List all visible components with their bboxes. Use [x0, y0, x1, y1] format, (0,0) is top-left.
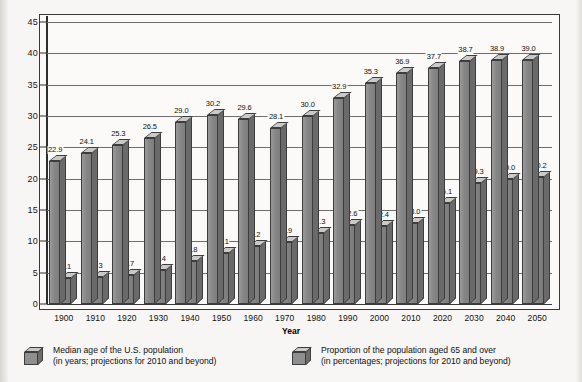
bar-median-age[interactable]: 38.9 — [491, 60, 502, 304]
bar-side — [418, 217, 424, 304]
x-axis-tick-label: 1970 — [275, 313, 294, 323]
bar-side — [260, 240, 266, 304]
bar-value-label: 30.2 — [205, 100, 221, 108]
bar-median-age[interactable]: 32.9 — [333, 98, 344, 304]
x-axis-tick-label: 2000 — [370, 313, 389, 323]
bar-value-label: 38.7 — [457, 46, 473, 54]
bar-group: 37.716.1 — [426, 22, 458, 304]
y-axis-tick-mark — [40, 116, 47, 117]
bar-median-age[interactable]: 24.1 — [81, 153, 92, 304]
cube-icon — [24, 347, 44, 365]
legend-line-1: Proportion of the population aged 65 and… — [321, 345, 496, 355]
bar-group: 22.94.1 — [47, 22, 79, 304]
y-axis-tick-mark — [40, 304, 47, 305]
bar-median-age[interactable]: 37.7 — [428, 68, 439, 304]
x-axis-tick-label: 1910 — [86, 313, 105, 323]
y-axis: 051015202530354045 — [0, 14, 47, 310]
bar-face — [238, 119, 249, 304]
bar-value-label: 32.9 — [331, 83, 347, 91]
bar-side — [355, 219, 361, 304]
bar-median-age[interactable]: 36.9 — [396, 73, 407, 304]
bar-side — [502, 54, 508, 304]
legend-label-median-age: Median age of the U.S. population (in ye… — [53, 345, 216, 366]
bar-side — [387, 220, 393, 304]
bar-side — [344, 92, 350, 304]
x-axis-title: Year — [0, 326, 582, 336]
y-axis-tick-mark — [40, 53, 47, 54]
bar-value-label: 26.5 — [142, 123, 158, 131]
bar-group: 25.34.7 — [110, 22, 142, 304]
x-axis-tick-label: 1940 — [180, 313, 199, 323]
bar-side — [197, 255, 203, 304]
bar-side — [470, 55, 476, 304]
bar-group: 38.920.0 — [489, 22, 521, 304]
bar-median-age[interactable]: 39.0 — [522, 60, 533, 304]
bar-face — [175, 122, 186, 304]
x-axis-tick-label: 1900 — [54, 313, 73, 323]
bar-median-age[interactable]: 26.5 — [144, 138, 155, 304]
bar-group: 32.912.6 — [331, 22, 363, 304]
bar-side — [186, 116, 192, 304]
bar-face — [302, 116, 313, 304]
bar-group: 29.06.8 — [173, 22, 205, 304]
y-axis-tick-mark — [40, 84, 47, 85]
bar-group: 30.011.3 — [300, 22, 332, 304]
bar-face — [491, 60, 502, 304]
bar-median-age[interactable]: 29.0 — [175, 122, 186, 304]
bar-group: 30.28.1 — [205, 22, 237, 304]
bar-face — [207, 115, 218, 304]
x-axis-tick-label: 1960 — [244, 313, 263, 323]
plot-area: 22.94.124.14.325.34.726.55.429.06.830.28… — [47, 22, 552, 304]
bar-face — [459, 61, 470, 304]
bar-value-label: 29.6 — [236, 104, 252, 112]
bar-median-age[interactable]: 38.7 — [459, 61, 470, 304]
y-axis-tick-mark — [40, 178, 47, 179]
bar-face — [522, 60, 533, 304]
bar-face — [112, 145, 123, 304]
bar-face — [365, 83, 376, 304]
bar-side — [281, 122, 287, 304]
chart-page: 051015202530354045 22.94.124.14.325.34.7… — [0, 0, 582, 382]
bar-side — [324, 227, 330, 304]
scan-edge-right — [576, 0, 582, 382]
y-axis-tick-mark — [40, 22, 47, 23]
x-axis-tick-label: 2050 — [528, 313, 547, 323]
bar-median-age[interactable]: 22.9 — [49, 161, 60, 305]
bar-value-label: 39.0 — [520, 45, 536, 53]
bar-value-label: 25.3 — [110, 130, 126, 138]
bar-median-age[interactable]: 29.6 — [238, 119, 249, 304]
bar-group: 29.69.2 — [236, 22, 268, 304]
bar-median-age[interactable]: 25.3 — [112, 145, 123, 304]
x-axis-tick-label: 1990 — [338, 313, 357, 323]
bar-value-label: 28.1 — [268, 113, 284, 121]
bar-group: 26.55.4 — [142, 22, 174, 304]
gridline — [47, 304, 552, 305]
bar-value-label: 29.0 — [173, 107, 189, 115]
legend-line-1: Median age of the U.S. population — [53, 345, 183, 355]
y-axis-tick-mark — [40, 241, 47, 242]
chart-legend: Median age of the U.S. population (in ye… — [24, 345, 564, 377]
bar-value-label: 24.1 — [79, 138, 95, 146]
bar-group: 38.719.3 — [457, 22, 489, 304]
bar-median-age[interactable]: 28.1 — [270, 128, 281, 304]
bar-median-age[interactable]: 35.3 — [365, 83, 376, 304]
bar-median-age[interactable]: 30.2 — [207, 115, 218, 304]
bar-side — [439, 62, 445, 304]
x-axis-tick-label: 1920 — [117, 313, 136, 323]
y-axis-tick-mark — [40, 272, 47, 273]
bar-side — [376, 77, 382, 304]
bar-median-age[interactable]: 30.0 — [302, 116, 313, 304]
bar-side — [313, 110, 319, 304]
bar-value-label: 36.9 — [394, 58, 410, 66]
legend-line-2: (in years; projections for 2010 and beyo… — [53, 356, 216, 367]
bar-group: 35.312.4 — [363, 22, 395, 304]
bar-face — [270, 128, 281, 304]
legend-item-median-age: Median age of the U.S. population (in ye… — [24, 345, 216, 366]
bar-face — [49, 161, 60, 305]
bar-side — [229, 247, 235, 304]
bar-group: 39.020.2 — [520, 22, 552, 304]
legend-label-proportion-65-plus: Proportion of the population aged 65 and… — [321, 345, 511, 366]
bar-side — [450, 197, 456, 304]
legend-line-2: (in percentages; projections for 2010 an… — [321, 356, 511, 367]
bar-face — [396, 73, 407, 304]
